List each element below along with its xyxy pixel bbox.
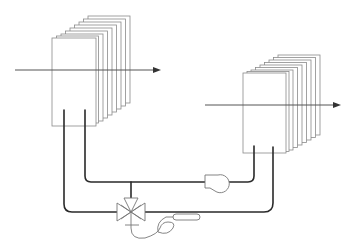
heat-recovery-diagram [0, 0, 355, 251]
heat-exchanger-right [243, 55, 320, 153]
circulating-pump [205, 175, 229, 193]
